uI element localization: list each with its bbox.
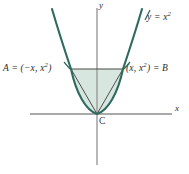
label-point-a-tail: ) [48, 63, 51, 73]
label-vertex-c: C [99, 117, 106, 127]
figure-canvas [0, 0, 189, 174]
label-point-a-text: A = (−x, x [3, 63, 45, 73]
label-curve-equation-exponent: 2 [168, 10, 172, 17]
label-y-axis: y [99, 1, 103, 10]
label-point-b-text: (x, x [126, 63, 143, 73]
label-curve-equation-text: y = x [147, 12, 168, 22]
label-point-b: (x, x2) = B [126, 62, 168, 74]
label-point-a: A = (−x, x2) [3, 62, 52, 74]
label-curve-equation: y = x2 [147, 11, 171, 23]
parabola-figure: A = (−x, x2) (x, x2) = B y = x2 y x C [0, 0, 189, 174]
label-x-axis: x [175, 104, 179, 113]
label-point-b-tail: ) = B [147, 63, 168, 73]
